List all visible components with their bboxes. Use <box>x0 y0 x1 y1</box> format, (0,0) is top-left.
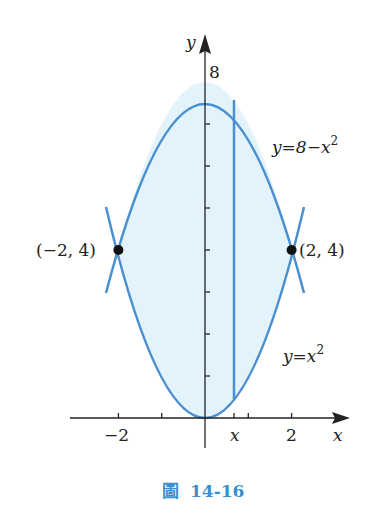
x-tick-label-x: x <box>230 425 240 445</box>
x-tick-label-2: 2 <box>286 425 297 445</box>
point-left <box>113 245 123 255</box>
point-right-label: (2, 4) <box>299 240 345 260</box>
upper-curve-label: y=8−x2 <box>271 134 338 157</box>
figure-canvas: y 8 y=8−x2 y=x2 (−2, 4) (2, 4) −2 x 2 x … <box>0 0 383 527</box>
caption-prefix: 圖 <box>162 481 179 501</box>
y-axis-arrow-icon <box>199 34 211 54</box>
x-tick-label-neg2: −2 <box>104 425 129 445</box>
point-left-label: (−2, 4) <box>36 240 96 260</box>
y-axis-label: y <box>185 32 196 52</box>
y-tick-label-8: 8 <box>209 62 220 82</box>
x-axis-label: x <box>333 425 343 445</box>
caption-number: 14-16 <box>190 481 244 501</box>
lower-curve-label: y=x2 <box>282 343 324 366</box>
point-right <box>287 245 297 255</box>
